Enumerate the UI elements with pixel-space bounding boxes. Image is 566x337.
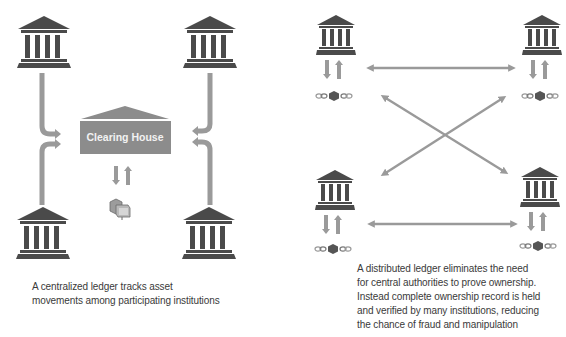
node-bank-icon-top-left (316, 15, 356, 55)
node-bank-icon-bottom-left (315, 170, 355, 210)
caption-line: Instead complete ownership record is hel… (357, 290, 540, 304)
clearing-house-label: Clearing House (70, 131, 180, 143)
chain-block-icon (522, 91, 558, 101)
updown-arrows-icon (529, 60, 549, 79)
caption-line: the chance of fraud and manipulation (357, 318, 540, 332)
chain-block-icon (520, 241, 556, 251)
bank-icon-top-right (183, 16, 237, 68)
distributed-caption: A distributed ledger eliminates the need… (357, 262, 540, 332)
bank-icon-top-left (17, 16, 71, 68)
arrow-top-left-to-clearing (42, 73, 61, 139)
updown-arrows-icon (322, 215, 342, 234)
centralized-caption: A centralized ledger tracks asset moveme… (32, 280, 220, 308)
bank-icon-bottom-left (16, 207, 70, 259)
caption-line: and verified by many institutions, reduc… (357, 304, 540, 318)
bank-icon-bottom-right (182, 207, 236, 259)
caption-line: for central authorities to prove ownersh… (357, 276, 540, 290)
node-bank-icon-bottom-right (520, 167, 560, 207)
asset-box-icon (110, 199, 130, 220)
node-bank-icon-top-right (522, 15, 562, 55)
caption-line: A centralized ledger tracks asset (32, 280, 220, 294)
updown-arrows-icon (527, 212, 547, 231)
chain-block-icon (315, 244, 351, 254)
chain-block-icon (316, 91, 352, 101)
distributed-panel (315, 15, 562, 254)
caption-line: A distributed ledger eliminates the need (357, 262, 540, 276)
arrow-bottom-left-to-clearing (42, 139, 61, 205)
updown-arrows-icon (112, 166, 132, 185)
arrow-top-right-to-clearing (192, 73, 210, 136)
updown-arrows-icon (323, 60, 343, 79)
ledger-comparison-diagram: Clearing House A centralized ledger trac… (0, 0, 566, 337)
clearing-house (80, 106, 171, 154)
arrow-bottom-right-to-clearing (192, 137, 210, 205)
caption-line: movements among participating institutio… (32, 294, 220, 308)
